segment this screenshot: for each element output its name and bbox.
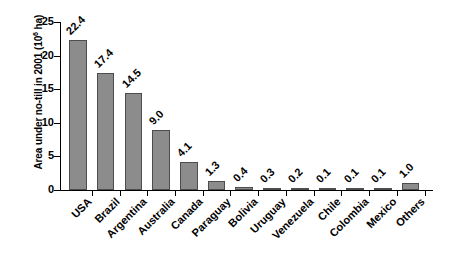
bar-value-label: 14.5 [120,67,143,90]
x-axis-tick [425,191,426,196]
bar-value-label: 0.4 [231,166,250,185]
y-axis-tick-label: 10 [14,117,54,128]
x-axis-tick [314,191,315,196]
x-axis-tick [120,191,121,196]
bar [152,130,170,191]
bar-value-label: 4.1 [175,141,194,160]
x-axis-tick [397,191,398,196]
bar-value-label: 22.4 [64,14,87,37]
y-axis-tick-label: 5 [14,150,54,161]
bar-value-label: 0.1 [369,166,388,185]
bar [291,188,309,190]
y-axis-tick [54,22,61,23]
y-axis-tick-label: 25 [14,16,54,27]
x-axis-tick [203,191,204,196]
bar [263,188,281,190]
bar [235,187,253,190]
bar [125,93,143,190]
bar-value-label: 0.1 [342,166,361,185]
y-axis-tick-label: 0 [14,184,54,195]
bar [374,188,392,190]
bar [319,188,337,190]
y-axis-tick [54,123,61,124]
y-axis-line [60,22,61,191]
bar-chart: Area under no-till in 2001 (106 ha) 0510… [0,0,453,265]
x-axis-tick [286,191,287,196]
y-axis-tick [54,56,61,57]
bar-value-label: 0.3 [259,166,278,185]
bar-value-label: 9.0 [148,108,167,127]
bar-value-label: 17.4 [92,47,115,70]
bar-value-label: 0.2 [286,166,305,185]
bar-value-label: 1.0 [397,162,416,181]
x-axis-line [60,190,433,191]
y-axis-title-exponent: 6 [32,32,39,36]
x-axis-tick [369,191,370,196]
bar-value-label: 1.3 [203,160,222,179]
bar [208,181,226,190]
y-axis-tick-label: 15 [14,83,54,94]
x-axis-tick [258,191,259,196]
bar [180,162,198,190]
x-axis-tick [92,191,93,196]
bar [97,73,115,190]
x-axis-tick [230,191,231,196]
bar [69,40,87,191]
y-axis-tick-label: 20 [14,50,54,61]
y-axis-tick [54,156,61,157]
bar-value-label: 0.1 [314,166,333,185]
bar [346,188,364,190]
x-axis-tick [341,191,342,196]
bar [402,183,420,190]
y-axis-tick [54,190,61,191]
y-axis-tick [54,89,61,90]
x-axis-tick [175,191,176,196]
x-axis-tick [147,191,148,196]
